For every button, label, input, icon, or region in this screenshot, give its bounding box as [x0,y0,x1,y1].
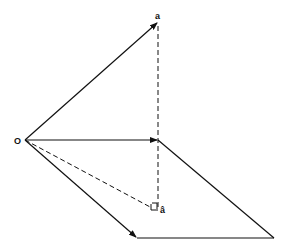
vector-a-arrow [25,23,157,140]
label-origin: O [14,136,21,146]
vector-projection-diagram: O a â [0,0,288,251]
label-projection: â [160,205,166,215]
lower-vector-arrow [25,140,136,237]
label-vector-a: a [155,11,161,21]
projection-dashed-line [25,140,152,208]
